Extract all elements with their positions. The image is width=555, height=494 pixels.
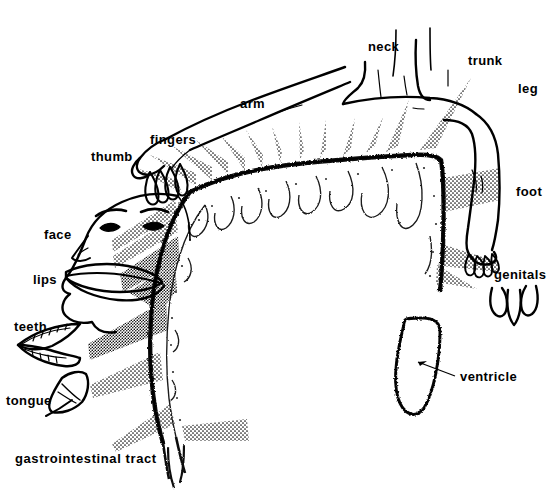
label-gastrointestinal-tract: gastrointestinal tract <box>15 452 157 465</box>
homunculus-artwork <box>0 0 555 494</box>
ray-leg <box>420 78 471 150</box>
label-teeth: teeth <box>14 320 47 333</box>
label-trunk: trunk <box>468 54 503 67</box>
ray-neck <box>343 117 383 156</box>
label-foot: foot <box>516 185 542 198</box>
label-ventricle: ventricle <box>460 370 517 383</box>
label-neck: neck <box>368 40 399 53</box>
ray-arm <box>299 120 326 160</box>
ventricle-shape <box>396 318 440 414</box>
ray-hand-palm <box>246 126 282 167</box>
ray-gastrointestinal-tract <box>112 404 249 452</box>
label-arm: arm <box>240 97 265 110</box>
label-leg: leg <box>518 82 538 95</box>
cortical-strip <box>150 155 443 479</box>
tongue-shape <box>46 372 88 416</box>
homunculus-figure: neck trunk leg foot genitals arm fingers… <box>0 0 555 494</box>
label-tongue: tongue <box>6 394 52 407</box>
label-face: face <box>44 228 72 241</box>
label-lips: lips <box>33 273 57 286</box>
label-fingers: fingers <box>150 133 196 146</box>
label-genitals: genitals <box>494 268 546 281</box>
label-thumb: thumb <box>91 150 133 163</box>
genitals-shape <box>490 286 537 325</box>
ray-trunk <box>386 100 409 152</box>
gastrointestinal-tract-shape <box>168 446 184 488</box>
